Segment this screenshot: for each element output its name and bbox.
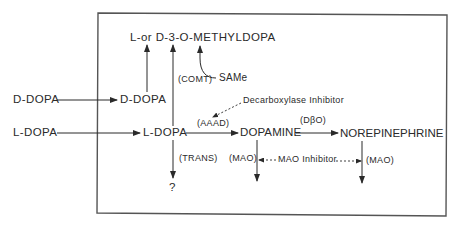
- mao-inhibitor-label: MAO Inhibitor: [278, 155, 337, 164]
- trans-label: (TRANS): [179, 154, 218, 163]
- norepinephrine-label: NOREPINEPHRINE: [340, 128, 444, 140]
- dbo-label: (DβO): [300, 116, 326, 125]
- d-dopa-outer-label: D-DOPA: [13, 94, 59, 106]
- l-dopa-outer-label: L-DOPA: [13, 127, 57, 139]
- decarboxylase-inhibitor-label: Decarboxylase Inhibitor: [243, 96, 344, 105]
- l-dopa-inner-label: L-DOPA: [143, 127, 187, 139]
- mao-right-label: (MAO): [366, 156, 394, 165]
- same-label: SAMe: [219, 73, 247, 83]
- comt-label: (COMT): [178, 75, 212, 84]
- aaad-label: (AAAD): [197, 119, 229, 128]
- arrow-decarboxylase-inhibitor: [213, 103, 241, 117]
- dopamine-label: DOPAMINE: [240, 127, 301, 139]
- mao-left-label: (MAO): [229, 154, 257, 163]
- unknown-product-label: ?: [169, 182, 176, 194]
- methyldopa-label: L-or D-3-O-METHYLDOPA: [130, 32, 276, 44]
- d-dopa-inner-label: D-DOPA: [120, 94, 166, 106]
